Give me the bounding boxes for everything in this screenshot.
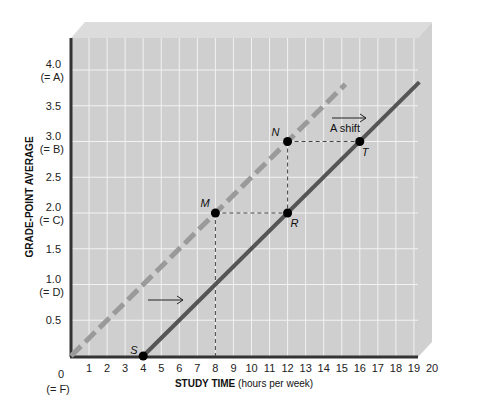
x-tick-label: 3 [122,362,128,374]
y-tick-label: 2.5 [46,171,61,183]
y-tick-sublabel: (= C) [39,214,64,226]
plot-top-face [71,22,432,38]
y-axis-title: GRADE-POINT AVERAGE [24,136,35,257]
x-tick-label: 9 [230,362,236,374]
x-origin-label: 0 [58,368,64,380]
gpa-study-time-chart: A shift SMRNT 12345678910111213141516171… [0,0,486,410]
x-tick-labels: 1234567891011121314151617181920 [86,362,438,374]
x-tick-label: 1 [86,362,92,374]
x-tick-label: 6 [176,362,182,374]
plot-side-face [418,22,432,357]
x-axis-title-unit: (hours per week) [235,378,313,389]
y-tick-label: 4.0 [46,58,61,70]
x-tick-label: 4 [140,362,146,374]
x-tick-label: 2 [104,362,110,374]
x-tick-label: 14 [318,362,330,374]
x-tick-label: 12 [281,362,293,374]
x-origin-sublabel: (= F) [46,383,70,395]
point-label-m: M [200,197,210,209]
x-tick-label: 11 [264,362,275,374]
point-label-n: N [272,126,280,138]
x-axis-title: STUDY TIME (hours per week) [175,378,313,389]
x-axis-title-bold: STUDY TIME [175,378,236,389]
x-tick-label: 13 [300,362,312,374]
plot-area [71,38,418,357]
point-n [283,137,292,146]
point-label-s: S [130,344,138,356]
y-tick-label: 1.0 [46,273,61,285]
y-tick-labels: 0.51.0(= D)1.52.0(= C)2.53.0(= B)3.54.0(… [39,58,64,326]
y-tick-sublabel: (= B) [40,143,64,155]
x-tick-label: 10 [245,362,257,374]
point-label-r: R [291,217,299,229]
x-tick-label: 5 [158,362,164,374]
y-tick-sublabel: (= D) [39,286,64,298]
x-tick-label: 7 [194,362,200,374]
y-tick-label: 3.0 [46,130,61,142]
y-tick-label: 1.5 [46,243,61,255]
x-tick-label: 20 [426,362,438,374]
x-tick-label: 18 [390,362,402,374]
x-tick-label: 8 [212,362,218,374]
x-tick-label: 17 [372,362,384,374]
point-m [211,209,220,218]
point-s [139,352,148,361]
y-tick-label: 3.5 [46,100,61,112]
y-tick-sublabel: (= A) [40,71,64,83]
x-tick-label: 15 [336,362,348,374]
y-tick-label: 0.5 [46,314,61,326]
x-tick-label: 16 [354,362,366,374]
y-tick-label: 2.0 [46,201,61,213]
x-tick-label: 19 [408,362,420,374]
shift-label: A shift [330,122,360,134]
